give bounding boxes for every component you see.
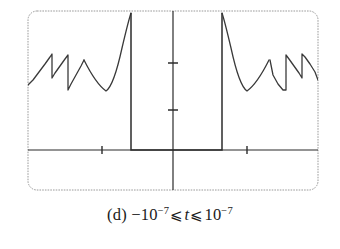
caption-part-label: (d) xyxy=(107,205,127,224)
caption-upper-base: 10 xyxy=(204,205,221,224)
caption-upper-exponent: −7 xyxy=(221,205,233,216)
figure-container: (d) −10−7⩽t⩽10−7 xyxy=(0,0,340,249)
figure-caption: (d) −10−7⩽t⩽10−7 xyxy=(0,205,340,225)
caption-minus-sign: − xyxy=(131,205,141,224)
caption-left-relation: ⩽ xyxy=(169,206,184,224)
caption-right-relation: ⩽ xyxy=(189,206,204,224)
caption-lower-exponent: −7 xyxy=(158,205,170,216)
caption-lower-base: 10 xyxy=(141,205,158,224)
